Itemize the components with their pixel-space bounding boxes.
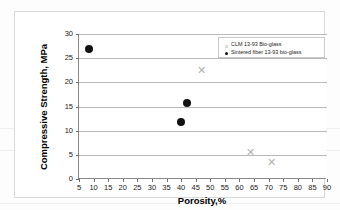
y-tick-label: 30 [51, 30, 73, 38]
data-point-clm: ✕ [246, 147, 255, 158]
data-point-sintered-fiber [177, 118, 185, 126]
y-tick-label: 0 [51, 175, 73, 183]
x-tick-mark [181, 179, 182, 182]
x-tick-mark [108, 179, 109, 182]
y-axis-title-text: Compressive Strength, MPa [38, 43, 49, 169]
x-tick-mark [196, 179, 197, 182]
x-tick-mark [137, 179, 138, 182]
x-tick-mark [79, 179, 80, 182]
x-tick-mark [152, 179, 153, 182]
data-point-clm: ✕ [267, 157, 276, 168]
y-tick-mark [76, 107, 79, 108]
x-tick-mark [298, 179, 299, 182]
gridline [79, 107, 327, 108]
x-tick-mark [283, 179, 284, 182]
x-tick-mark [225, 179, 226, 182]
y-tick-label: 15 [51, 103, 73, 111]
y-axis-title: Compressive Strength, MPa [33, 34, 53, 179]
dot-marker-icon [222, 44, 231, 62]
y-tick-label: 10 [51, 127, 73, 135]
chart-frame: Compressive Strength, MPa 05101520253051… [14, 11, 325, 198]
y-tick-mark [76, 34, 79, 35]
y-tick-mark [76, 131, 79, 132]
x-tick-mark [312, 179, 313, 182]
data-point-clm: ✕ [197, 65, 206, 76]
y-tick-mark [76, 58, 79, 59]
data-point-sintered-fiber [183, 99, 191, 107]
x-tick-mark [254, 179, 255, 182]
x-tick-mark [123, 179, 124, 182]
y-tick-mark [76, 82, 79, 83]
x-tick-label: 90 [318, 184, 336, 192]
gridline [79, 58, 327, 59]
x-tick-mark [167, 179, 168, 182]
chart-screenshot: Compressive Strength, MPa 05101520253051… [0, 0, 340, 210]
legend-label-clm: CLM 13-93 Bio-glass [231, 42, 281, 47]
gridline [79, 155, 327, 156]
x-tick-mark [327, 179, 328, 182]
x-axis-title: Porosity,% [78, 195, 326, 206]
gridline [79, 82, 327, 83]
legend-item-sintered-fiber: Sintered fiber 13-93 bio-glass [222, 49, 321, 58]
x-tick-mark [210, 179, 211, 182]
legend-label-sintered-fiber: Sintered fiber 13-93 bio-glass [231, 50, 301, 55]
gridline [79, 131, 327, 132]
y-tick-label: 20 [51, 78, 73, 86]
legend-item-clm: ✕ CLM 13-93 Bio-glass [222, 40, 321, 49]
x-tick-mark [94, 179, 95, 182]
chart-legend: ✕ CLM 13-93 Bio-glass Sintered fiber 13-… [218, 37, 325, 58]
y-tick-label: 5 [51, 151, 73, 159]
x-tick-mark [239, 179, 240, 182]
gridline [79, 34, 327, 35]
data-point-sintered-fiber [85, 45, 93, 53]
y-tick-mark [76, 155, 79, 156]
y-tick-label: 25 [51, 54, 73, 62]
x-tick-mark [269, 179, 270, 182]
